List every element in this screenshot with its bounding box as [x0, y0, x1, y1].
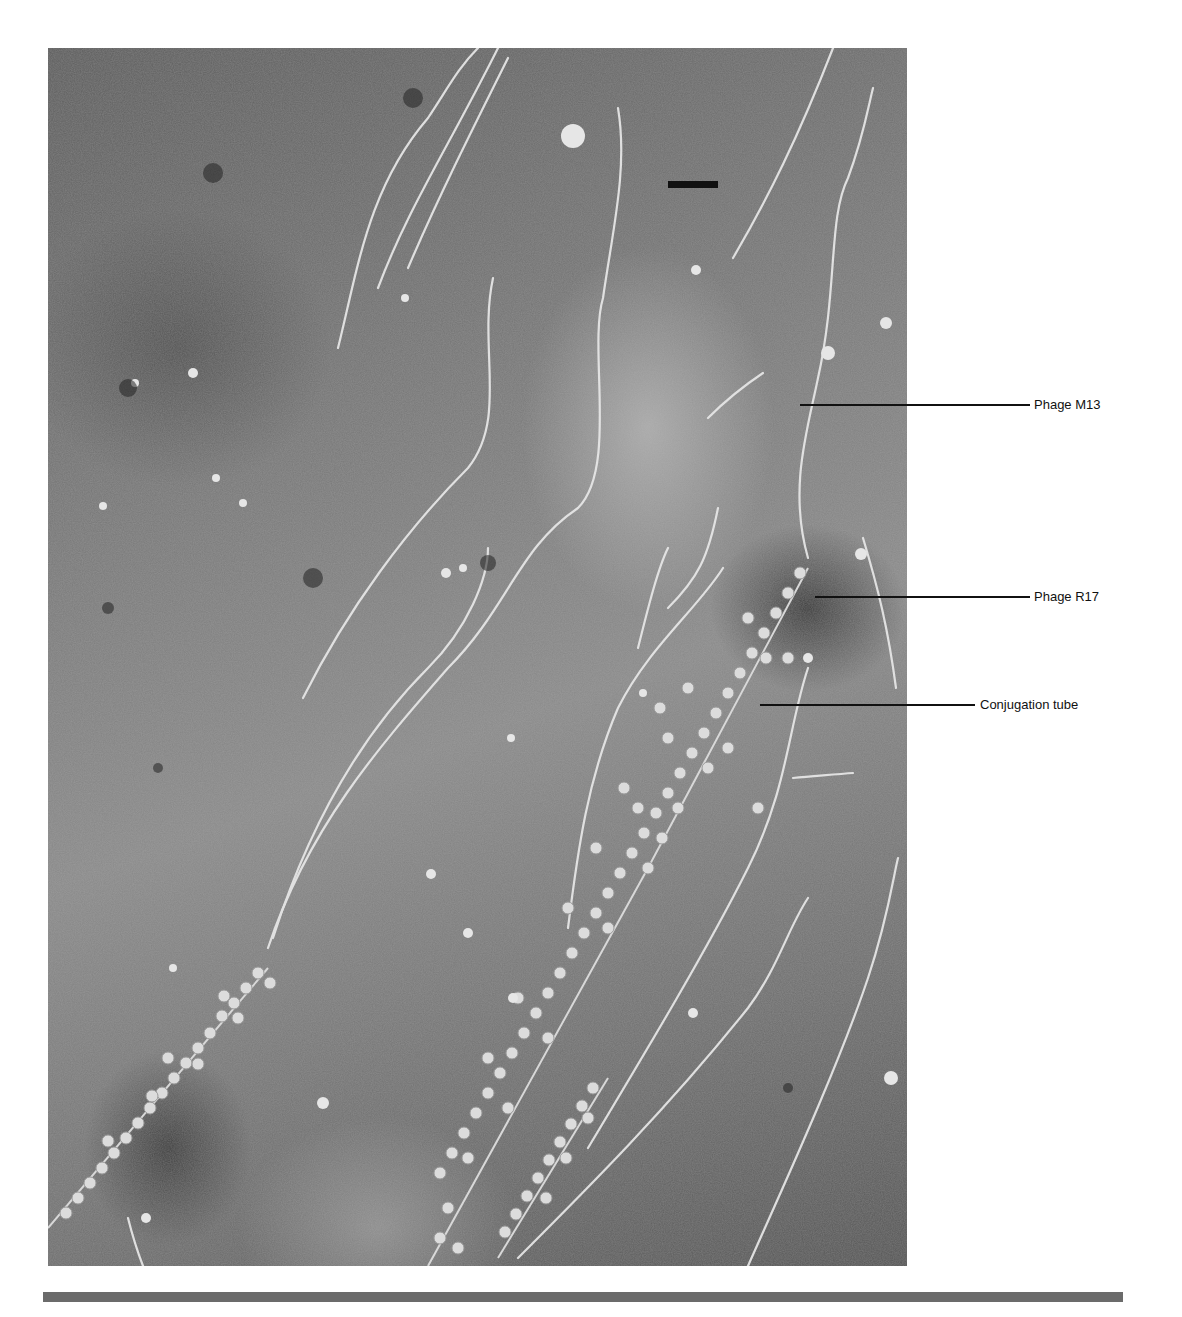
- leader-line-conjugation-tube: [760, 704, 975, 706]
- figure: Phage M13 Phage R17 Conjugation tube: [0, 0, 1182, 1317]
- micrograph-content: [48, 48, 907, 1266]
- scale-bar: [668, 181, 718, 188]
- leader-line-m13: [800, 404, 1030, 406]
- label-conjugation-tube: Conjugation tube: [980, 697, 1078, 713]
- leader-line-r17: [815, 596, 1030, 598]
- horizontal-rule: [43, 1292, 1123, 1302]
- label-phage-m13: Phage M13: [1034, 397, 1101, 413]
- electron-micrograph: [48, 48, 907, 1266]
- label-phage-r17: Phage R17: [1034, 589, 1099, 605]
